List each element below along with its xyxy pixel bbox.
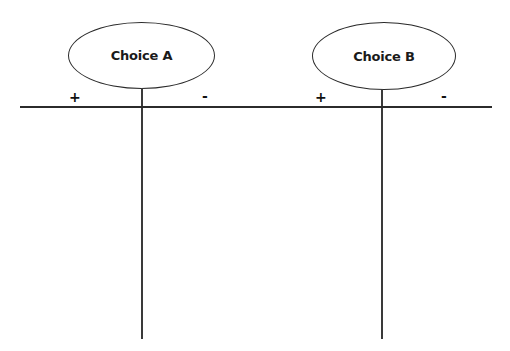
- choice-b-label: Choice B: [353, 49, 415, 64]
- choice-b-stem: [381, 89, 383, 339]
- choice-a-plus-label: +: [69, 90, 81, 104]
- choice-b-minus-label: -: [441, 89, 447, 103]
- crossbar-line: [20, 106, 492, 108]
- choice-b-ellipse: Choice B: [312, 22, 456, 90]
- choice-a-ellipse: Choice A: [68, 22, 215, 89]
- choice-a-minus-label: -: [202, 89, 208, 103]
- t-chart-diagram: Choice A + - Choice B + -: [0, 0, 510, 351]
- choice-a-label: Choice A: [111, 48, 173, 63]
- choice-a-stem: [141, 88, 143, 339]
- choice-b-plus-label: +: [315, 90, 327, 104]
